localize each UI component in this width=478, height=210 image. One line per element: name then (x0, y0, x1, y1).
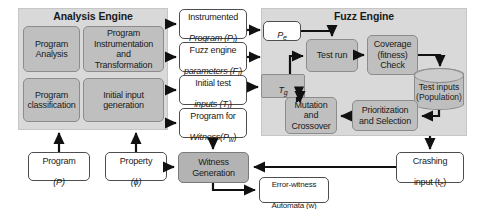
diagram-canvas: Analysis Engine Program Analysis Program… (0, 0, 478, 209)
box-crashing-input[interactable]: Crashing input (tc) (396, 152, 464, 183)
box-error-witness-automata[interactable]: Error-witness Automata (w) (259, 177, 329, 203)
box-mutation-and-crossover[interactable]: Mutation and Crossover (285, 97, 337, 134)
node-pe[interactable]: Pe (263, 21, 301, 41)
initial-test-inputs-line1: Initial test (195, 78, 231, 88)
program-for-witness-line2: Witness(P (190, 132, 229, 142)
node-pe-sub: e (283, 33, 287, 40)
crashing-input-tail: ) (443, 177, 446, 187)
box-mutation-and-crossover-label: Mutation and Crossover (289, 100, 332, 132)
program-for-witness-tail: ) (234, 132, 237, 142)
box-program-analysis-label: Program Analysis (33, 39, 70, 60)
box-program-input[interactable]: Program (P) (28, 152, 90, 181)
crashing-input-line1: Crashing (413, 156, 447, 166)
fuzz-engine-parameters-line1: Fuzz engine (190, 45, 237, 55)
property-input-line1: Property (120, 156, 152, 166)
property-input-sym: (ϕ) (131, 177, 141, 187)
box-initial-input-generation-label: Initial input generation (101, 90, 146, 111)
box-property-input[interactable]: Property (ϕ) (105, 152, 167, 181)
node-tg[interactable]: Tg (261, 74, 305, 98)
box-witness-generation[interactable]: Witness Generation (178, 152, 249, 183)
box-program-for-witness[interactable]: Program for Witness(Pw) (179, 108, 247, 138)
arrow-witness-to-automata (213, 183, 255, 190)
program-input-line1: Program (42, 156, 75, 166)
box-program-analysis[interactable]: Program Analysis (23, 26, 80, 72)
analysis-engine-title: Analysis Engine (18, 11, 168, 22)
box-test-run-label: Test run (315, 50, 349, 61)
box-program-classification-label: Program classification (25, 90, 77, 111)
crashing-input-line2: input (t (414, 177, 440, 187)
program-input-sym: (P) (53, 177, 64, 187)
box-coverage-fitness-check[interactable]: Coverage (fitness) Check (367, 35, 418, 75)
store-test-inputs-population-label: Test inputs (Population) (416, 77, 462, 102)
instrumented-program-line1: Instrumented (188, 12, 238, 22)
error-witness-automata-line1: Error-witness (272, 180, 317, 189)
box-program-instrumentation[interactable]: Program Instrumentation and Transformati… (83, 26, 164, 72)
box-coverage-fitness-check-label: Coverage (fitness) Check (372, 39, 413, 71)
error-witness-automata-line2: Automata (w) (271, 201, 316, 210)
box-witness-generation-label: Witness Generation (190, 157, 237, 178)
box-test-run[interactable]: Test run (306, 39, 358, 72)
box-initial-input-generation[interactable]: Initial input generation (83, 78, 164, 122)
box-prioritization-and-selection[interactable]: Prioritization and Selection (352, 100, 418, 131)
box-prioritization-and-selection-label: Prioritization and Selection (357, 105, 413, 126)
box-program-instrumentation-label: Program Instrumentation and Transformati… (92, 28, 155, 70)
box-program-classification[interactable]: Program classification (23, 78, 80, 122)
program-for-witness-line1: Program for (190, 111, 235, 121)
store-test-inputs-population[interactable]: Test inputs (Population) (414, 68, 464, 110)
node-tg-sub: g (284, 88, 288, 95)
